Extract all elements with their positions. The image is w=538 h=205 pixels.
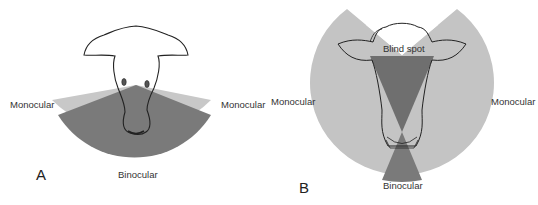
visual-field-diagram: [0, 0, 538, 205]
panel-b-binocular-label: Binocular: [383, 180, 423, 191]
panel-a-letter: A: [36, 166, 46, 183]
panel-a-diagram: [52, 26, 211, 158]
panel-b-letter: B: [299, 179, 309, 196]
panel-a-monocular-left-label: Monocular: [10, 99, 54, 110]
blind-spot-label: Blind spot: [383, 43, 425, 54]
panel-b-monocular-left-label: Monocular: [271, 96, 315, 107]
panel-a-monocular-right-label: Monocular: [221, 99, 265, 110]
panel-a-binocular-label: Binocular: [118, 169, 158, 180]
panel-b-diagram: [310, 9, 494, 182]
sheep-right-eye: [145, 81, 149, 88]
sheep-left-eye: [122, 79, 126, 86]
panel-b-monocular-right-label: Monocular: [491, 96, 535, 107]
